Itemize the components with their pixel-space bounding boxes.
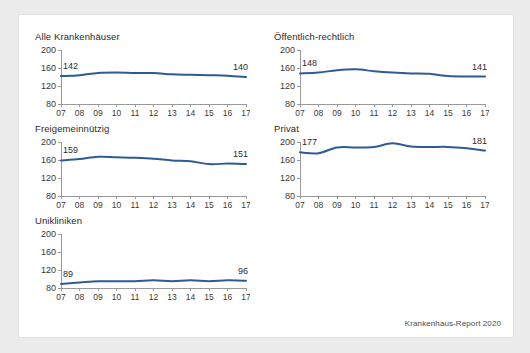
endpoint-value-label: 151 [233, 149, 248, 159]
y-axis-tick-label: 200 [280, 137, 295, 147]
x-axis-tick-label: 17 [241, 200, 250, 210]
x-axis-tick-label: 09 [93, 200, 103, 210]
endpoint-value-label: 141 [472, 62, 487, 72]
x-axis-tick-label: 07 [56, 200, 66, 210]
y-axis-tick-label: 80 [285, 99, 295, 109]
x-axis-tick-label: 13 [167, 200, 177, 210]
panel-title: Alle Krankenhäuser [35, 31, 120, 42]
plot-area: 8012016020007080910111213141516178996 [35, 228, 250, 304]
x-axis-tick-label: 12 [388, 200, 398, 210]
x-axis-tick-label: 08 [314, 108, 324, 118]
x-axis-tick-label: 10 [112, 200, 122, 210]
x-axis-tick-label: 16 [223, 200, 233, 210]
x-axis-tick-label: 14 [186, 200, 196, 210]
x-axis-tick-label: 11 [131, 200, 140, 210]
x-axis-tick-label: 13 [406, 200, 416, 210]
x-axis-tick-label: 07 [56, 108, 66, 118]
plot-area: 801201602000708091011121314151617142140 [35, 44, 250, 120]
y-axis-tick-label: 80 [46, 283, 56, 293]
y-axis-tick-label: 80 [46, 99, 56, 109]
x-axis-tick-label: 11 [370, 200, 379, 210]
series-line [300, 143, 485, 153]
x-axis-tick-label: 11 [131, 108, 140, 118]
plot-area: 801201602000708091011121314151617148141 [274, 44, 489, 120]
x-axis-tick-label: 15 [204, 292, 214, 302]
x-axis-tick-label: 10 [351, 200, 361, 210]
x-axis-tick-label: 07 [295, 108, 305, 118]
y-axis-tick-label: 160 [41, 63, 56, 73]
y-axis-tick-label: 200 [280, 45, 295, 55]
x-axis-tick-label: 11 [370, 108, 379, 118]
x-axis-tick-label: 07 [56, 292, 66, 302]
endpoint-value-label: 142 [63, 61, 78, 71]
y-axis-tick-label: 160 [41, 247, 56, 257]
y-axis-tick-label: 200 [41, 137, 56, 147]
x-axis-tick-label: 17 [241, 292, 250, 302]
x-axis-tick-label: 09 [332, 200, 342, 210]
x-axis-tick-label: 11 [131, 292, 140, 302]
x-axis-tick-label: 08 [75, 108, 85, 118]
endpoint-value-label: 89 [63, 269, 73, 279]
x-axis-tick-label: 16 [462, 108, 472, 118]
x-axis-tick-label: 10 [112, 108, 122, 118]
x-axis-tick-label: 16 [223, 292, 233, 302]
x-axis-tick-label: 10 [351, 108, 361, 118]
x-axis-tick-label: 07 [295, 200, 305, 210]
figure-card: Alle Krankenhäuser 801201602000708091011… [18, 14, 514, 338]
panel-title: Freigemeinnützig [35, 123, 109, 134]
y-axis-tick-label: 80 [285, 191, 295, 201]
x-axis-tick-label: 10 [112, 292, 122, 302]
line-chart-svg: 801201602000708091011121314151617142140 [35, 44, 250, 120]
x-axis-tick-label: 12 [149, 200, 159, 210]
x-axis-tick-label: 12 [149, 108, 159, 118]
y-axis-tick-label: 120 [280, 173, 295, 183]
plot-area: 801201602000708091011121314151617177181 [274, 136, 489, 212]
series-line [300, 69, 485, 76]
x-axis-tick-label: 17 [480, 200, 489, 210]
x-axis-tick-label: 13 [167, 108, 177, 118]
x-axis-tick-label: 09 [93, 292, 103, 302]
x-axis-tick-label: 14 [425, 200, 435, 210]
x-axis-tick-label: 08 [75, 200, 85, 210]
y-axis-tick-label: 120 [41, 81, 56, 91]
y-axis-tick-label: 160 [280, 63, 295, 73]
panel-title: Privat [274, 123, 299, 134]
line-chart-svg: 801201602000708091011121314151617177181 [274, 136, 489, 212]
y-axis-tick-label: 200 [41, 229, 56, 239]
y-axis-tick-label: 200 [41, 45, 56, 55]
panel-title: Unikliniken [35, 215, 82, 226]
x-axis-tick-label: 12 [388, 108, 398, 118]
x-axis-tick-label: 08 [75, 292, 85, 302]
x-axis-tick-label: 17 [480, 108, 489, 118]
endpoint-value-label: 159 [63, 145, 78, 155]
x-axis-tick-label: 15 [204, 108, 214, 118]
y-axis-tick-label: 80 [46, 191, 56, 201]
panel-title: Öffentlich-rechtlich [274, 31, 355, 42]
endpoint-value-label: 148 [302, 58, 317, 68]
line-chart-svg: 801201602000708091011121314151617148141 [274, 44, 489, 120]
x-axis-tick-label: 15 [204, 200, 214, 210]
plot-area: 801201602000708091011121314151617159151 [35, 136, 250, 212]
line-chart-svg: 8012016020007080910111213141516178996 [35, 228, 250, 304]
x-axis-tick-label: 14 [186, 108, 196, 118]
endpoint-value-label: 181 [472, 136, 487, 146]
x-axis-tick-label: 14 [186, 292, 196, 302]
endpoint-value-label: 140 [233, 62, 248, 72]
x-axis-tick-label: 14 [425, 108, 435, 118]
series-line [61, 280, 246, 284]
y-axis-tick-label: 120 [41, 265, 56, 275]
x-axis-tick-label: 13 [167, 292, 177, 302]
x-axis-tick-label: 15 [443, 108, 453, 118]
y-axis-tick-label: 160 [41, 155, 56, 165]
source-note: Krankenhaus-Report 2020 [405, 319, 501, 328]
x-axis-tick-label: 08 [314, 200, 324, 210]
x-axis-tick-label: 17 [241, 108, 250, 118]
x-axis-tick-label: 16 [223, 108, 233, 118]
y-axis-tick-label: 120 [41, 173, 56, 183]
series-line [61, 157, 246, 164]
x-axis-tick-label: 09 [332, 108, 342, 118]
series-line [61, 73, 246, 78]
x-axis-tick-label: 16 [462, 200, 472, 210]
endpoint-value-label: 177 [302, 137, 317, 147]
x-axis-tick-label: 09 [93, 108, 103, 118]
